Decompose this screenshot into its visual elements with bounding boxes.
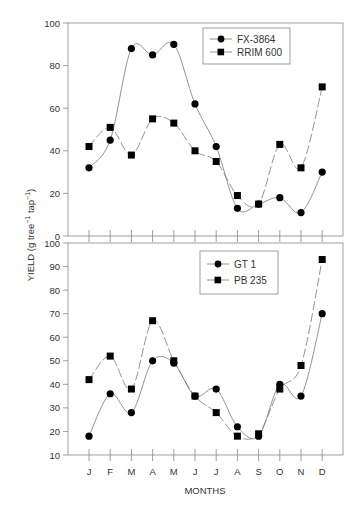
y-tick-label: 40 [49,145,60,156]
series-line-rrim-600 [89,87,322,207]
y-tick-label: 80 [49,285,60,296]
circle-marker [107,137,114,144]
circle-marker [234,423,241,430]
top-panel: 020406080100FX-3864RRIM 600 [44,18,343,243]
circle-marker [213,385,220,392]
y-tick-label: 90 [49,261,60,272]
x-tick-label: S [255,466,261,477]
circle-marker [149,51,156,58]
x-axis-title: MONTHS [184,485,225,496]
square-marker [276,386,283,393]
y-tick-label: 60 [49,103,60,114]
square-marker [149,115,156,122]
y-tick-label: 30 [49,402,60,413]
square-marker [276,141,283,148]
y-tick-label: 50 [49,355,60,366]
circle-marker [213,143,220,150]
circle-marker [234,205,241,212]
square-marker [319,256,326,263]
square-marker [234,192,241,199]
square-marker [255,430,262,437]
circle-marker [297,209,304,216]
square-marker [128,152,135,159]
legend-circle-icon [215,261,222,268]
square-marker [213,158,220,165]
y-tick-label: 60 [49,332,60,343]
circle-marker [297,393,304,400]
legend: GT 1PB 235 [200,251,278,294]
x-tick-label: M [170,466,178,477]
square-marker [170,120,177,127]
x-tick-label: J [193,466,198,477]
x-tick-label: D [319,466,326,477]
x-tick-label: N [298,466,305,477]
x-tick-label: J [87,466,92,477]
legend-box [200,251,278,294]
circle-marker [107,390,114,397]
square-marker [170,357,177,364]
legend-square-icon [215,277,222,284]
square-marker [234,433,241,440]
square-marker [298,164,305,171]
x-tick-label: J [214,466,219,477]
y-tick-label: 100 [44,238,60,249]
circle-marker [85,164,92,171]
y-tick-label: 80 [49,60,60,71]
series-line-gt-1 [89,314,322,439]
y-tick-label: 20 [49,188,60,199]
square-marker [192,147,199,154]
legend-label: FX-3864 [237,34,276,45]
yield-chart: 020406080100FX-3864RRIM 600 102030405060… [0,0,362,509]
square-marker [128,386,135,393]
legend-label: PB 235 [234,275,267,286]
legend: FX-3864RRIM 600 [203,28,290,64]
y-tick-label: 20 [49,426,60,437]
circle-marker [85,433,92,440]
square-marker [192,393,199,400]
circle-marker [276,194,283,201]
square-marker [213,409,220,416]
y-axis-title: YIELD (g tree−1 tap−1) [24,189,36,282]
circle-marker [319,169,326,176]
y-tick-label: 10 [49,450,60,461]
square-marker [149,317,156,324]
bottom-panel: 102030405060708090100JFMAMJJASONDGT 1PB … [44,238,343,478]
square-marker [255,201,262,208]
square-marker [107,353,114,360]
y-tick-label: 100 [44,18,60,29]
legend-square-icon [218,49,225,56]
legend-label: RRIM 600 [237,47,282,58]
x-tick-label: F [107,466,113,477]
square-marker [107,124,114,131]
x-tick-label: O [276,466,283,477]
y-tick-label: 40 [49,379,60,390]
y-tick-label: 70 [49,308,60,319]
square-marker [298,362,305,369]
circle-marker [128,409,135,416]
square-marker [319,83,326,90]
series-line-fx-3864 [89,42,322,213]
circle-marker [170,41,177,48]
circle-marker [149,357,156,364]
square-marker [86,376,93,383]
legend-circle-icon [218,36,225,43]
x-tick-label: A [234,466,241,477]
circle-marker [191,100,198,107]
circle-marker [319,310,326,317]
square-marker [86,143,93,150]
legend-label: GT 1 [234,259,256,270]
circle-marker [128,45,135,52]
x-tick-label: A [149,466,156,477]
x-tick-label: M [127,466,135,477]
